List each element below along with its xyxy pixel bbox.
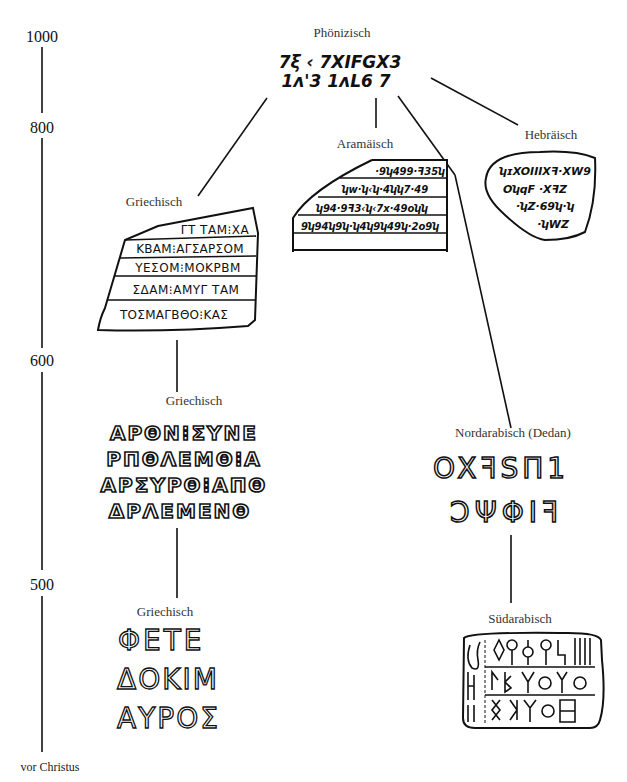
greek-late-inscription: ΦΕΤΕ ΔΟΚΙΜ ΑΥΡΟΣ (117, 624, 220, 735)
inscription-line: ΔΡΛΕΜΕΝΘ (109, 499, 252, 523)
inscription-line: ΓΤ ΤΑΜ⁝ΧΑ (181, 223, 250, 237)
tick-600: 600 (30, 352, 54, 369)
inscription-line: ΦΕΤΕ (118, 624, 205, 657)
greek-middle-inscription: ΑΡΘΝ⁝ΣΥΝΕ ΡΠΘΛΕΜΘ⁝Α ΑΡΣΥΡΘ⁝ΑΠΘ ΔΡΛΕΜΕΝΘ (101, 421, 268, 523)
inscription-line: 9ʮ94ʮ9ʮ·ʮ4ʮ9ʮ49ʮ·2o9ʮ (301, 221, 439, 232)
node-label: Griechisch (137, 604, 194, 619)
inscription-line: ΑΥΡΟΣ (117, 702, 220, 735)
node-label: Phönizisch (313, 25, 371, 40)
node-aramaic: Aramäisch ·9ʮ499·ꟻ35ʮ ʮw·ʮ‹ʮ·4ʮʮ7·49 ʮ94… (293, 136, 447, 252)
inscription-line: ΑΡΣΥΡΘ⁝ΑΠΘ (101, 473, 268, 497)
node-phoenician: Phönizisch 7ξ ‹ 7XIFGX3 1ʌ'3 1ʌL6 7 (279, 25, 401, 91)
node-greek-middle: Griechisch ΑΡΘΝ⁝ΣΥΝΕ ΡΠΘΛΕΜΘ⁝Α ΑΡΣΥΡΘ⁝ΑΠ… (101, 393, 268, 523)
inscription-line: ΡΠΘΛΕΜΘ⁝Α (106, 447, 262, 471)
inscription-line: ΑΡΘΝ⁝ΣΥΝΕ (110, 421, 258, 445)
north-arabian-inscription: OXꟻSΠ1 ϽΨΦIꟻ (433, 452, 569, 529)
tick-1000: 1000 (26, 28, 58, 45)
inscription-line: ·ʮWZ (537, 218, 570, 231)
node-label: Hebräisch (525, 127, 578, 142)
inscription-line: ΣΔΑΜ⁝ΑΜΥΓ ΤΑΜ (133, 283, 240, 297)
inscription-line: 7ξ ‹ 7XIFGX3 (279, 52, 401, 72)
inscription-line: ʮ94·9ꟻ3‹ʮ‹7x·49oʮʮ (315, 203, 428, 214)
tick-800: 800 (30, 119, 54, 136)
inscription-line: OʮqF ·XꟻZ (503, 183, 568, 196)
inscription-line: ΔΟΚΙΜ (117, 663, 219, 696)
inscription-line: ΤΟΣΜΑΓΒΘΟ⁝ΚΑΣ (119, 308, 228, 322)
inscription-line: ΚΒΑΜ⁝ΑΓΣΑΡΣΟΜ (136, 242, 244, 256)
inscription-line: ʮɪXOIIIXꟻ·XW9 (498, 165, 591, 178)
inscription-line: ΥΕΣΟΜ⁝ΜΟΚΡΒΜ (134, 261, 241, 275)
node-label: Südarabisch (488, 611, 552, 626)
tick-500: 500 (30, 576, 54, 593)
node-north-arabian: Nordarabisch (Dedan) OXꟻSΠ1 ϽΨΦIꟻ (433, 425, 571, 529)
node-hebrew: Hebräisch ʮɪXOIIIXꟻ·XW9 OʮqF ·XꟻZ ·ʮZ·69… (485, 127, 595, 240)
timeline: 1000 800 600 500 vor Christus (20, 28, 79, 774)
node-greek-early: Griechisch ΓΤ ΤΑΜ⁝ΧΑ ΚΒΑΜ⁝ΑΓΣΑΡΣΟΜ ΥΕΣΟΜ… (98, 194, 258, 331)
inscription-line: ·ʮZ·69ʮ·ʮ (516, 200, 575, 213)
script-genealogy-diagram: 1000 800 600 500 vor Christus Phönizisch… (0, 0, 627, 782)
connector-phoenician-hebrew (431, 78, 518, 125)
node-greek-late: Griechisch ΦΕΤΕ ΔΟΚΙΜ ΑΥΡΟΣ (117, 604, 220, 735)
inscription-line: OXꟻSΠ1 (433, 452, 569, 485)
node-label: Griechisch (166, 393, 223, 408)
node-label: Aramäisch (337, 136, 394, 151)
node-label: Nordarabisch (Dedan) (455, 425, 571, 440)
node-label: Griechisch (126, 194, 183, 209)
connector-phoenician-greek (198, 98, 267, 196)
node-south-arabian: Südarabisch (463, 611, 604, 728)
inscription-line: ·9ʮ499·ꟻ35ʮ (375, 166, 445, 177)
era-label: vor Christus (20, 760, 79, 774)
inscription-line: ϽΨΦIꟻ (450, 496, 563, 529)
inscription-line: ʮw·ʮ‹ʮ·4ʮʮ7·49 (341, 184, 428, 195)
south-arabian-tablet (463, 633, 604, 728)
inscription-line: 1ʌ'3 1ʌL6 7 (281, 71, 390, 91)
